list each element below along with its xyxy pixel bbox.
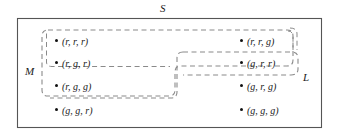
element-tuple: (g, g, r) bbox=[62, 105, 93, 116]
region-label-l: L bbox=[303, 72, 309, 83]
element-bullet-icon bbox=[55, 84, 58, 87]
element-bullet-icon bbox=[240, 61, 243, 64]
region-l-upper-lobe-inner bbox=[288, 31, 293, 50]
element-bullet-icon bbox=[240, 39, 243, 42]
set-element: (g, r, g) bbox=[240, 81, 276, 92]
set-element: (g, g, r) bbox=[55, 105, 93, 116]
set-element: (r, r, g) bbox=[240, 36, 274, 47]
set-element: (r, r, r) bbox=[55, 36, 88, 47]
element-tuple: (g, r, r) bbox=[247, 58, 275, 69]
set-element: (r, g, g) bbox=[55, 81, 91, 92]
diagram-canvas: S M L (r, r, r) (r, g, r) (r, g, g) (g, … bbox=[0, 0, 339, 140]
element-tuple: (r, r, g) bbox=[247, 36, 274, 47]
element-bullet-icon bbox=[240, 108, 243, 111]
element-bullet-icon bbox=[55, 39, 58, 42]
element-tuple: (g, g, g) bbox=[247, 105, 279, 116]
element-tuple: (r, g, g) bbox=[62, 81, 91, 92]
element-bullet-icon bbox=[55, 108, 58, 111]
universe-label-s: S bbox=[160, 3, 166, 14]
set-element: (r, g, r) bbox=[55, 58, 90, 69]
element-tuple: (r, r, r) bbox=[62, 36, 88, 47]
element-tuple: (g, r, g) bbox=[247, 81, 276, 92]
set-element: (g, g, g) bbox=[240, 105, 279, 116]
element-bullet-icon bbox=[240, 84, 243, 87]
region-label-m: M bbox=[25, 66, 34, 77]
element-bullet-icon bbox=[55, 61, 58, 64]
element-tuple: (r, g, r) bbox=[62, 58, 90, 69]
set-element: (g, r, r) bbox=[240, 58, 275, 69]
set-diagram-graphics bbox=[0, 0, 339, 140]
